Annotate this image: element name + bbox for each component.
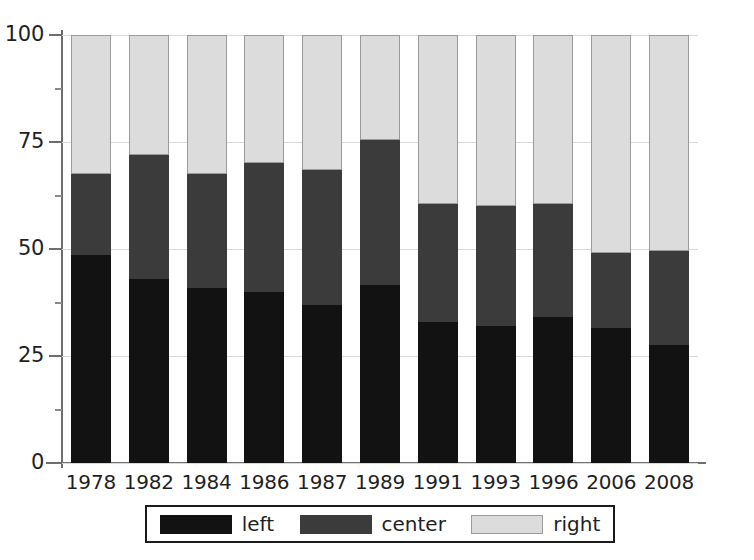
bar-segment-right xyxy=(360,35,400,140)
x-tick-label: 1978 xyxy=(62,470,120,494)
bar-stack xyxy=(244,35,284,463)
x-tick-label: 1989 xyxy=(351,470,409,494)
bar-segment-right xyxy=(244,35,284,163)
bar-stack xyxy=(476,35,516,463)
bar-segment-center xyxy=(244,163,284,291)
bar-segment-right xyxy=(476,35,516,206)
y-axis-minor-tick xyxy=(0,196,62,197)
y-tick-mark xyxy=(49,248,62,250)
y-tick-mark xyxy=(49,355,62,357)
plot-area xyxy=(62,35,698,463)
x-tick-label: 1984 xyxy=(178,470,236,494)
x-tick-label: 2008 xyxy=(640,470,698,494)
bar-segment-left xyxy=(129,279,169,463)
x-tick-label: 1987 xyxy=(293,470,351,494)
legend-label-left: left xyxy=(242,513,274,535)
bar-stack xyxy=(533,35,573,463)
gridline xyxy=(62,463,698,464)
legend-item-center: center xyxy=(300,513,446,535)
y-minor-tick-mark xyxy=(55,409,62,411)
bar-segment-left xyxy=(360,285,400,463)
y-tick-label: 50 xyxy=(18,236,44,260)
bar-segment-left xyxy=(418,322,458,463)
y-axis-tick: 50 xyxy=(0,249,62,250)
x-tick-label: 1982 xyxy=(120,470,178,494)
y-tick-mark xyxy=(49,34,62,36)
bar-segment-right xyxy=(71,35,111,174)
legend-swatch-center-icon xyxy=(300,515,372,534)
x-tick-label: 1986 xyxy=(235,470,293,494)
bar-segment-left xyxy=(591,328,631,463)
bar-stack xyxy=(302,35,342,463)
bar-segment-center xyxy=(533,204,573,317)
bar-segment-right xyxy=(129,35,169,155)
y-tick-mark xyxy=(49,462,62,464)
y-axis-tick: 0 xyxy=(0,463,62,464)
bar-stack xyxy=(71,35,111,463)
legend-item-left: left xyxy=(160,513,274,535)
y-axis-minor-tick xyxy=(0,410,62,411)
chart-legend: left center right xyxy=(145,505,615,543)
y-tick-label: 100 xyxy=(5,22,44,46)
bar-segment-right xyxy=(649,35,689,251)
y-minor-tick-mark xyxy=(55,88,62,90)
y-axis-minor-tick xyxy=(0,89,62,90)
bar-segment-left xyxy=(244,292,284,463)
bar-segment-right xyxy=(591,35,631,253)
bar-segment-center xyxy=(302,170,342,305)
legend-label-right: right xyxy=(553,513,600,535)
x-tick-label: 1996 xyxy=(525,470,583,494)
y-axis-tick: 75 xyxy=(0,142,62,143)
bar-segment-left xyxy=(187,288,227,463)
y-axis-tick: 25 xyxy=(0,356,62,357)
y-tick-mark xyxy=(49,141,62,143)
y-tick-label: 75 xyxy=(18,129,44,153)
bar-segment-center xyxy=(129,155,169,279)
bar-stack xyxy=(360,35,400,463)
legend-swatch-left-icon xyxy=(160,515,232,534)
y-minor-tick-mark xyxy=(55,195,62,197)
bar-segment-left xyxy=(476,326,516,463)
bar-stack xyxy=(129,35,169,463)
x-tick-label: 2006 xyxy=(582,470,640,494)
bar-segment-center xyxy=(418,204,458,322)
y-tick-label: 0 xyxy=(31,450,44,474)
x-tick-label: 1991 xyxy=(409,470,467,494)
bar-segment-left xyxy=(649,345,689,463)
y-axis-tick: 100 xyxy=(0,35,62,36)
legend-label-center: center xyxy=(382,513,446,535)
bar-segment-center xyxy=(71,174,111,255)
y-axis-minor-tick xyxy=(0,303,62,304)
bar-segment-right xyxy=(187,35,227,174)
bar-stack xyxy=(418,35,458,463)
bar-stack xyxy=(187,35,227,463)
bar-segment-right xyxy=(302,35,342,170)
bar-stack xyxy=(591,35,631,463)
stacked-bar-chart: 0255075100 19781982198419861987198919911… xyxy=(0,0,754,560)
y-minor-tick-mark xyxy=(55,302,62,304)
bar-segment-right xyxy=(533,35,573,204)
bar-segment-right xyxy=(418,35,458,204)
y-tick-label: 25 xyxy=(18,343,44,367)
legend-item-right: right xyxy=(471,513,600,535)
bar-segment-left xyxy=(302,305,342,463)
bar-stack xyxy=(649,35,689,463)
bar-segment-center xyxy=(591,253,631,328)
bar-segment-left xyxy=(71,255,111,463)
x-tick-label: 1993 xyxy=(467,470,525,494)
bar-segment-center xyxy=(649,251,689,345)
legend-swatch-right-icon xyxy=(471,515,543,534)
bar-segment-center xyxy=(187,174,227,287)
bar-segment-center xyxy=(360,140,400,286)
bar-segment-center xyxy=(476,206,516,326)
bar-segment-left xyxy=(533,317,573,463)
